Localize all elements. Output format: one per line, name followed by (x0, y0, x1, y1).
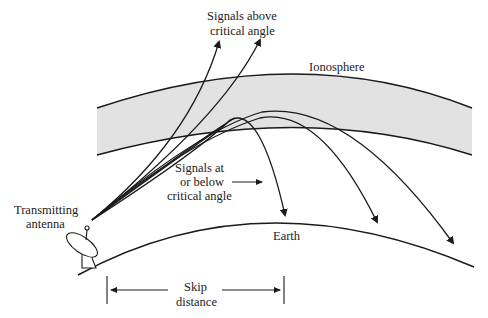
label-skip-2: distance (176, 295, 217, 309)
label-signals-above-1: Signals above (207, 9, 277, 23)
label-ionosphere: Ionosphere (309, 60, 365, 74)
transmitting-antenna-icon (63, 226, 102, 268)
label-signals-at-1: Signals at (175, 161, 224, 175)
skip-distance-diagram: Signals above critical angle Ionosphere … (0, 0, 488, 318)
label-signals-above-2: critical angle (210, 24, 275, 38)
label-transmitting-1: Transmitting (14, 203, 79, 217)
label-transmitting-2: antenna (26, 217, 65, 231)
label-skip-1: Skip (184, 280, 207, 294)
label-signals-at-2: or below (180, 175, 224, 189)
label-signals-at-3: critical angle (167, 189, 232, 203)
ionosphere-layer (97, 74, 472, 155)
label-earth: Earth (273, 229, 301, 243)
